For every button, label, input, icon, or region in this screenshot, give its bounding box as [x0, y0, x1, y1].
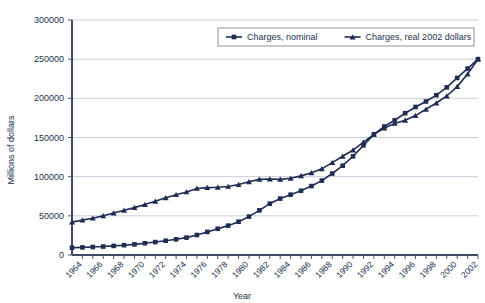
x-tick-label: 1980 — [230, 259, 251, 280]
y-tick-label: 150000 — [34, 133, 64, 143]
data-point-marker — [455, 76, 460, 81]
x-tick-label: 1978 — [209, 259, 230, 280]
y-axis-tick-labels: 050000100000150000200000250000300000 — [34, 15, 64, 260]
x-tick-label: 1972 — [147, 259, 168, 280]
data-point-marker — [288, 192, 293, 197]
legend-label-nominal: Charges, nominal — [247, 32, 318, 42]
data-point-marker — [195, 233, 200, 238]
data-point-marker — [330, 171, 335, 176]
x-tick-label: 1964 — [63, 259, 84, 280]
data-point-marker — [278, 196, 283, 201]
data-point-marker — [143, 241, 148, 246]
y-tick-label: 0 — [59, 250, 64, 260]
x-tick-label: 1992 — [355, 259, 376, 280]
data-point-marker — [70, 245, 75, 250]
data-point-marker — [247, 214, 252, 219]
x-axis-tick-labels: 1964196619681970197219741976197819801982… — [63, 259, 479, 280]
x-tick-label: 1968 — [105, 259, 126, 280]
data-point-marker — [163, 238, 168, 243]
data-point-marker — [424, 99, 429, 104]
data-point-marker — [413, 105, 418, 110]
x-tick-label: 1990 — [334, 259, 355, 280]
data-point-marker — [444, 85, 449, 90]
data-point-marker — [267, 201, 272, 206]
x-tick-label: 1988 — [313, 259, 334, 280]
data-point-marker — [101, 244, 106, 249]
data-point-marker — [132, 242, 137, 247]
data-point-marker — [91, 245, 96, 250]
x-tick-label: 1984 — [272, 259, 293, 280]
x-tick-label: 1994 — [376, 259, 397, 280]
data-point-marker — [80, 245, 85, 250]
data-point-marker — [465, 66, 470, 71]
chart-container: 050000100000150000200000250000300000 196… — [0, 0, 485, 303]
y-axis-title: Millions of dollars — [6, 115, 16, 185]
data-point-marker — [111, 244, 116, 249]
series-real-2002 — [69, 56, 481, 224]
y-tick-label: 250000 — [34, 54, 64, 64]
data-point-marker — [236, 219, 241, 224]
data-point-marker — [215, 226, 220, 231]
data-point-marker — [153, 240, 158, 245]
series-nominal — [70, 57, 481, 250]
data-point-marker — [340, 163, 345, 168]
x-tick-label: 1998 — [417, 259, 438, 280]
data-point-marker — [226, 223, 231, 228]
data-point-marker — [320, 178, 325, 183]
data-point-marker — [184, 235, 189, 240]
x-axis-title: Year — [233, 291, 251, 301]
x-tick-label: 2000 — [438, 259, 459, 280]
data-point-marker — [232, 35, 237, 40]
x-tick-label: 1966 — [84, 259, 105, 280]
data-point-marker — [174, 237, 179, 242]
x-tick-label: 1976 — [188, 259, 209, 280]
y-tick-label: 200000 — [34, 93, 64, 103]
x-tick-label: 1982 — [251, 259, 272, 280]
data-point-marker — [434, 93, 439, 98]
data-point-marker — [403, 111, 408, 116]
data-point-marker — [351, 154, 356, 159]
data-point-marker — [309, 184, 314, 189]
data-point-marker — [299, 188, 304, 193]
data-point-marker — [122, 243, 127, 248]
y-tick-label: 50000 — [39, 211, 64, 221]
y-tick-label: 100000 — [34, 172, 64, 182]
x-tick-label: 1974 — [167, 259, 188, 280]
x-tick-label: 2002 — [459, 259, 480, 280]
data-point-marker — [257, 208, 262, 213]
data-series — [69, 56, 481, 250]
legend-label-real-2002: Charges, real 2002 dollars — [366, 32, 472, 42]
y-tick-label: 300000 — [34, 15, 64, 25]
x-tick-label: 1986 — [292, 259, 313, 280]
data-point-marker — [205, 230, 210, 235]
line-chart: 050000100000150000200000250000300000 196… — [0, 0, 485, 303]
x-tick-label: 1970 — [126, 259, 147, 280]
gridlines — [68, 20, 478, 255]
chart-legend: Charges, nominalCharges, real 2002 dolla… — [218, 28, 474, 46]
x-tick-label: 1996 — [397, 259, 418, 280]
